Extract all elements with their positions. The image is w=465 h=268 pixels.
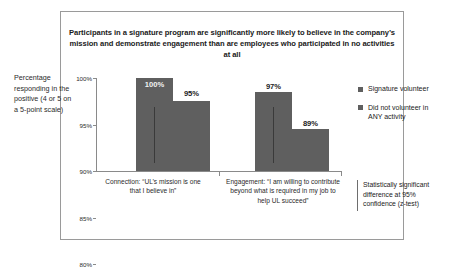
- footnote-divider: [357, 180, 358, 211]
- plot-area: 100% 95% 90% 85% 80% 100% 95% 97% 89%: [96, 78, 342, 171]
- significance-annotation: Statistically significant difference at …: [363, 180, 441, 209]
- chart-legend: Signature volunteer Did not volunteer in…: [358, 84, 434, 131]
- category-label-connection: Connection: “UL’s mission is one that I …: [99, 177, 207, 196]
- bar-group1-series2: [173, 101, 210, 171]
- category-label-engagement: Engagement: “I am willing to contribute …: [224, 177, 342, 205]
- chart-title: Participants in a signature program are …: [66, 27, 398, 61]
- legend-swatch-icon: [358, 87, 363, 92]
- legend-label: Signature volunteer: [368, 85, 429, 92]
- y-axis-title: Percentage responding in the positive (4…: [14, 73, 76, 115]
- legend-swatch-icon: [358, 105, 363, 110]
- bar-group2-series2: [292, 129, 329, 171]
- legend-item-did-not-volunteer[interactable]: Did not volunteer in ANY activity: [358, 103, 434, 122]
- y-tick-label-100: 100%: [76, 75, 92, 82]
- bar-label-group1-series1: 100%: [136, 80, 173, 89]
- y-tick-label-90: 90%: [80, 168, 92, 175]
- bar-label-group2-series1: 97%: [255, 82, 292, 91]
- bar-label-group2-series2: 89%: [292, 119, 329, 128]
- y-tick: [93, 78, 96, 79]
- y-tick: [93, 264, 96, 265]
- y-tick: [93, 171, 96, 172]
- y-tick-label-95: 95%: [80, 121, 92, 128]
- bar-label-group1-series2: 95%: [173, 89, 210, 98]
- category-separator: [341, 171, 342, 176]
- y-axis-line: [96, 78, 97, 171]
- y-tick-label-80: 80%: [80, 261, 92, 268]
- legend-label: Did not volunteer in ANY activity: [368, 104, 428, 121]
- y-tick-label-85: 85%: [80, 214, 92, 221]
- y-tick: [93, 218, 96, 219]
- error-bar-group2: [273, 107, 274, 163]
- y-tick: [93, 125, 96, 126]
- category-separator: [219, 171, 220, 176]
- legend-item-signature-volunteer[interactable]: Signature volunteer: [358, 84, 434, 94]
- error-bar-group1: [154, 107, 155, 163]
